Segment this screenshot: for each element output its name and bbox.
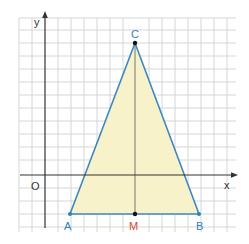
label-b: B xyxy=(196,220,203,232)
x-axis-label: x xyxy=(224,179,230,191)
coordinate-diagram: y x O A B C M xyxy=(0,0,249,244)
point-a xyxy=(68,212,72,216)
point-m xyxy=(133,212,137,216)
point-c xyxy=(133,41,137,45)
origin-label: O xyxy=(31,180,40,192)
x-axis-arrow-icon xyxy=(231,172,238,178)
y-axis-label: y xyxy=(34,16,40,28)
y-axis xyxy=(42,11,48,228)
label-m: M xyxy=(129,220,138,232)
y-axis-arrow-icon xyxy=(42,11,48,18)
point-b xyxy=(197,212,201,216)
label-c: C xyxy=(131,28,139,40)
label-a: A xyxy=(64,220,72,232)
